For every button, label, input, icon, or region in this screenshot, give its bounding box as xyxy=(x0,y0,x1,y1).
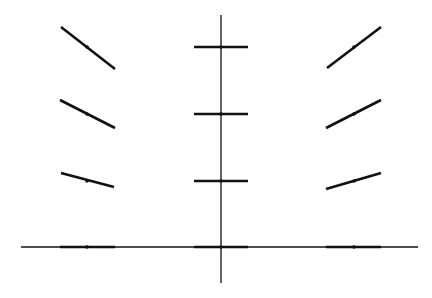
slope-field-plot xyxy=(0,0,432,298)
slope-segment xyxy=(194,179,248,183)
slope-segment xyxy=(327,27,381,68)
slope-segment xyxy=(326,173,381,189)
slope-segment xyxy=(60,100,115,128)
sample-point-dot xyxy=(219,112,223,116)
slope-segment xyxy=(194,112,248,116)
sample-point-dot xyxy=(352,45,356,49)
slope-segment xyxy=(61,173,114,187)
sample-point-dot xyxy=(85,245,89,249)
slope-segment xyxy=(61,27,115,69)
slope-segment xyxy=(326,245,381,249)
sample-point-dot xyxy=(352,245,356,249)
slope-segment xyxy=(60,245,115,249)
slope-segment xyxy=(194,45,248,49)
sample-point-dot xyxy=(219,45,223,49)
sample-point-dot xyxy=(219,179,223,183)
sample-point-dot xyxy=(352,179,356,183)
sample-point-dot xyxy=(85,45,89,49)
sample-point-dot xyxy=(85,112,89,116)
slope-segment xyxy=(326,100,381,128)
slope-segment xyxy=(194,245,248,249)
sample-point-dot xyxy=(85,179,89,183)
sample-point-dot xyxy=(352,112,356,116)
sample-point-dot xyxy=(219,245,223,249)
slope-field-diagram xyxy=(0,0,432,298)
